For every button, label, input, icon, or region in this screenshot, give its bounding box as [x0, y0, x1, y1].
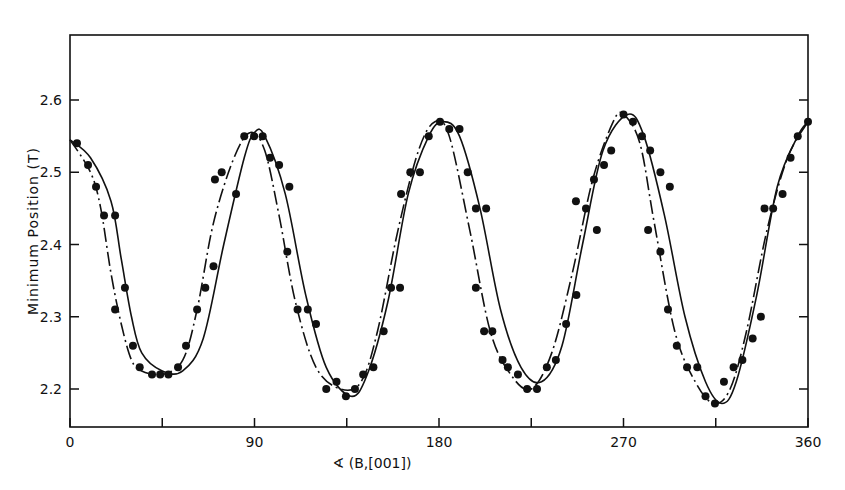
data-point [480, 327, 488, 335]
data-point [285, 183, 293, 191]
data-point [572, 291, 580, 299]
data-point [572, 197, 580, 205]
y-tick-label: 2.5 [40, 164, 62, 180]
y-tick-label: 2.4 [40, 237, 62, 253]
data-point [312, 320, 320, 328]
data-point [644, 226, 652, 234]
data-point [720, 378, 728, 386]
data-point [164, 371, 172, 379]
data-point [673, 342, 681, 350]
x-tick-label: 0 [66, 434, 75, 450]
data-point [593, 226, 601, 234]
data-point [369, 363, 377, 371]
chart: 090180270360 2.22.32.42.52.6 Minimum Pos… [0, 0, 845, 490]
data-point [425, 132, 433, 140]
data-point [294, 306, 302, 314]
data-point [445, 125, 453, 133]
x-axis-label: ∢ (B,[001]) [333, 455, 412, 471]
x-tick-label: 90 [246, 434, 264, 450]
fit-curve-solid [70, 114, 808, 403]
data-point [749, 334, 757, 342]
data-point [504, 363, 512, 371]
data-point [761, 204, 769, 212]
y-tick-label: 2.6 [40, 92, 62, 108]
data-point [664, 306, 672, 314]
data-point [232, 190, 240, 198]
data-point [387, 284, 395, 292]
data-point [533, 385, 541, 393]
data-point [656, 168, 664, 176]
data-point [629, 118, 637, 126]
data-point [499, 356, 507, 364]
data-point [472, 204, 480, 212]
data-point [600, 161, 608, 169]
data-point [92, 183, 100, 191]
data-point [322, 385, 330, 393]
data-point [590, 175, 598, 183]
y-tick-label: 2.2 [40, 381, 62, 397]
x-tick-label: 270 [610, 434, 637, 450]
x-tick-label: 360 [795, 434, 822, 450]
data-point [111, 212, 119, 220]
data-point [201, 284, 209, 292]
data-point [482, 204, 490, 212]
data-point [779, 190, 787, 198]
data-point [342, 392, 350, 400]
data-point [702, 392, 710, 400]
data-point [646, 147, 654, 155]
data-point [240, 132, 248, 140]
data-point [275, 161, 283, 169]
data-point [514, 371, 522, 379]
data-point [84, 161, 92, 169]
data-point [182, 342, 190, 350]
curve-solid [70, 114, 808, 403]
data-point [380, 327, 388, 335]
data-point [683, 363, 691, 371]
x-axis-ticks: 090180270360 [66, 418, 822, 450]
data-point [406, 168, 414, 176]
data-point [804, 118, 812, 126]
data-point [210, 262, 218, 270]
data-point [211, 175, 219, 183]
data-point [333, 378, 341, 386]
data-point [456, 125, 464, 133]
data-point [472, 284, 480, 292]
data-point [582, 204, 590, 212]
data-point [156, 371, 164, 379]
data-point [436, 118, 444, 126]
data-point [607, 147, 615, 155]
data-point [397, 190, 405, 198]
data-point [100, 212, 108, 220]
data-point [730, 363, 738, 371]
data-point [562, 320, 570, 328]
data-point [464, 168, 472, 176]
data-point [250, 132, 258, 140]
data-point [218, 168, 226, 176]
data-point [259, 132, 267, 140]
x-tick-label: 180 [426, 434, 453, 450]
data-point [787, 154, 795, 162]
data-point [148, 371, 156, 379]
data-point [304, 306, 312, 314]
data-point [73, 139, 81, 147]
data-point [416, 168, 424, 176]
data-points [73, 110, 812, 407]
data-point [193, 306, 201, 314]
data-point [794, 132, 802, 140]
data-point [552, 356, 560, 364]
data-point [359, 371, 367, 379]
data-point [666, 183, 674, 191]
data-point [523, 385, 531, 393]
data-point [769, 204, 777, 212]
y-axis-label: Minimum Position (T) [25, 147, 41, 315]
data-point [174, 363, 182, 371]
data-point [283, 248, 291, 256]
data-point [129, 342, 137, 350]
data-point [757, 313, 765, 321]
data-point [620, 110, 628, 118]
data-point [396, 284, 404, 292]
data-point [693, 363, 701, 371]
y-tick-label: 2.3 [40, 309, 62, 325]
data-point [351, 385, 359, 393]
data-point [656, 248, 664, 256]
